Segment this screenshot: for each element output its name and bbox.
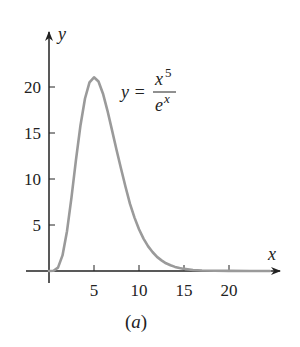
figure-caption: (a) [125,311,147,333]
x-tick-label-10: 10 [131,281,148,300]
y-tick-label-20: 20 [24,78,41,97]
formula-annotation: y = x 5 e x [119,65,176,115]
y-ticks [49,87,55,225]
y-axis-label: y [56,24,66,44]
formula-denominator: e [155,95,163,115]
formula-denominator-exp: x [163,91,170,106]
svg-text:y =: y = [119,82,146,102]
x-tick-label-15: 15 [176,281,193,300]
formula-numerator-exp: 5 [165,65,172,80]
x-tick-label-5: 5 [90,281,99,300]
formula-lhs-y: y = [119,82,146,102]
x-tick-label-20: 20 [221,281,238,300]
chart: 5 10 15 20 5 10 15 20 y x y = x 5 e x (a… [0,0,300,347]
y-tick-label-15: 15 [24,124,41,143]
y-tick-label-5: 5 [33,216,42,235]
x-axis-label: x [267,244,276,264]
y-tick-label-10: 10 [24,170,41,189]
formula-numerator: x [154,69,163,89]
